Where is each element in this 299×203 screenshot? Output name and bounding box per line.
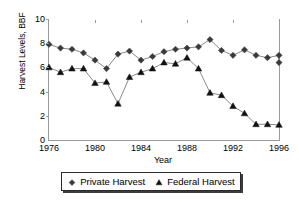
y-tick-mark [46,67,49,68]
data-point-marker [276,52,282,58]
y-tick-mark [46,19,49,20]
x-tick-mark [233,20,234,23]
data-point-marker [149,53,155,59]
legend-entry-2[interactable]: Federal Harvest [154,176,235,187]
triangle-marker-icon [154,177,164,187]
legend-label: Federal Harvest [167,176,235,187]
y-axis-label: Harvest Levels, BBF [17,0,27,111]
data-point-marker [264,55,270,61]
chart-legend: Private HarvestFederal Harvest [61,172,241,191]
y-tick-mark [46,92,49,93]
x-tick-mark [95,20,96,23]
data-point-marker [241,47,247,53]
y-tick-mark [46,116,49,117]
x-axis-label: Year [48,155,278,165]
series-2 [46,54,282,127]
y-tick-label: 8 [40,39,45,48]
data-point-marker [195,44,201,50]
data-point-marker [207,90,213,96]
data-point-marker [103,79,109,85]
x-tick-label: 1992 [223,144,243,153]
y-tick-label: 10 [35,15,45,24]
data-point-marker [172,46,178,52]
data-point-marker [115,100,121,106]
y-tick-label: 4 [40,87,45,96]
data-point-marker [241,110,247,116]
x-tick-mark [187,20,188,23]
data-point-marker [92,57,98,63]
x-tick-label: 1980 [85,144,105,153]
chart-figure: Harvest Levels, BBF 02468101976198019841… [0,0,299,203]
series-1 [46,36,282,71]
legend-entry-1[interactable]: Private Harvest [67,176,145,187]
y-tick-label: 2 [40,111,45,120]
data-point-marker [184,54,190,60]
x-tick-label: 1988 [177,144,197,153]
data-point-marker [253,52,259,58]
data-point-marker [126,74,132,80]
data-point-marker [69,46,75,52]
y-tick-mark [46,43,49,44]
chart-series-layer [49,19,279,140]
legend-label: Private Harvest [80,176,145,187]
data-point-marker [276,59,282,65]
y-tick-label: 6 [40,63,45,72]
x-tick-label: 1976 [39,144,59,153]
data-point-marker [149,65,155,71]
diamond-marker-icon [67,177,77,187]
data-point-marker [230,52,236,58]
data-point-marker [161,49,167,55]
data-point-marker [184,45,190,51]
data-point-marker [80,50,86,56]
plot-area: 0246810197619801984198819921996 [48,19,280,141]
x-tick-mark [141,20,142,23]
x-tick-label: 1984 [131,144,151,153]
data-point-marker [57,45,63,51]
x-tick-label: 1996 [269,144,289,153]
data-point-marker [161,59,167,65]
